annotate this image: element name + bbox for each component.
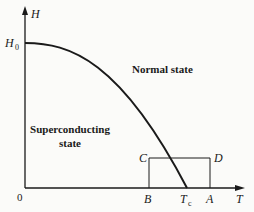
y-axis-arrow-icon	[22, 6, 28, 15]
point-d-label: D	[213, 151, 223, 165]
h0-subscript: 0	[15, 43, 19, 52]
tc-label: T	[180, 192, 188, 206]
point-b-label: B	[144, 192, 152, 206]
point-c-label: C	[139, 151, 148, 165]
y-axis-label: H	[30, 7, 41, 21]
point-a-label: A	[205, 192, 214, 206]
superconducting-label-line1: Superconducting	[30, 123, 110, 135]
tc-subscript: c	[188, 199, 192, 208]
normal-state-label: Normal state	[132, 63, 193, 75]
origin-label: 0	[17, 191, 23, 203]
x-axis-arrow-icon	[235, 185, 245, 191]
h0-label: H	[4, 36, 15, 50]
phase-diagram: H T 0 H 0 T c Normal state Superconducti…	[0, 0, 254, 212]
x-axis-label: T	[236, 192, 244, 206]
superconducting-label-line2: state	[59, 137, 81, 149]
